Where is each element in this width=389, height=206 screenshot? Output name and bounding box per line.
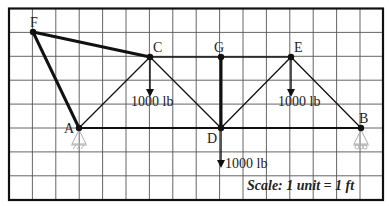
grid-lines [9,9,383,201]
load-label: 1000 lb [225,156,267,171]
loads: 1000 lb1000 lb1000 lb [131,57,320,171]
node-label: C [153,40,162,55]
truss-diagram: 1000 lb1000 lb1000 lb FCGEADB Scale: 1 u… [0,0,389,206]
member-EB [291,57,361,128]
member-CD [150,57,221,128]
member-FC [33,32,150,57]
scale-label: Scale: 1 unit = 1 ft [247,178,355,193]
node-label: B [359,111,368,126]
node-label: E [294,40,303,55]
load-arrow-icon [146,57,154,97]
node-label: F [30,15,38,30]
member-DE [221,57,291,128]
load-label: 1000 lb [131,94,173,109]
load-arrow-icon [217,128,225,168]
load-label: 1000 lb [278,94,320,109]
load-arrow-icon [287,57,295,97]
member-AC [79,57,150,128]
support-roller-icon [353,130,369,149]
node-label: A [64,121,75,136]
node-label: D [207,131,217,146]
node-label: G [214,40,224,55]
